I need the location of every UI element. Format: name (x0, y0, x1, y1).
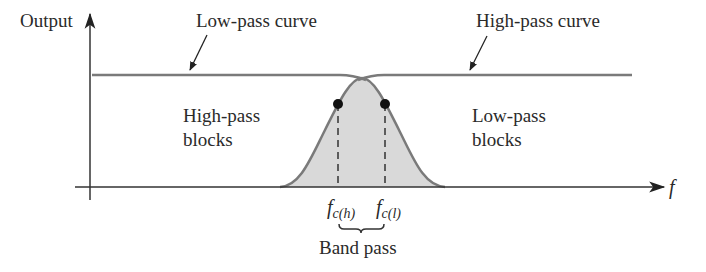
band-pass-diagram: Output f Low-pass curve High-pass curve … (0, 0, 706, 272)
high-pass-label-arrow (470, 36, 487, 70)
high-pass-blocks-label-line2: blocks (183, 129, 233, 150)
y-axis-label: Output (20, 10, 74, 31)
high-pass-curve (358, 75, 632, 80)
cutoff-low-label: fc(l) (376, 196, 401, 222)
band-pass-brace (339, 224, 384, 233)
cutoff-low-point (380, 99, 390, 109)
low-pass-curve-label: Low-pass curve (196, 10, 317, 31)
high-pass-curve-label: High-pass curve (476, 10, 600, 31)
low-pass-blocks-label-line2: blocks (472, 129, 522, 150)
low-pass-label-arrow (190, 35, 207, 70)
low-pass-curve (92, 75, 366, 80)
x-axis-label: f (669, 176, 677, 199)
band-pass-label: Band pass (319, 237, 397, 258)
cutoff-high-label: fc(h) (327, 196, 355, 222)
low-pass-blocks-label-line1: Low-pass (472, 105, 546, 126)
cutoff-high-point (333, 99, 343, 109)
high-pass-blocks-label-line1: High-pass (183, 105, 260, 126)
